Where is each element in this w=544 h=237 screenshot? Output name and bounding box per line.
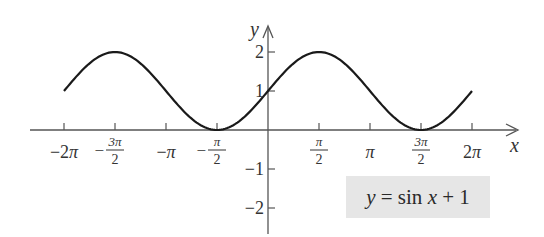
svg-text:−2π: −2π — [50, 142, 79, 162]
equation-legend: y = sin x + 1 — [346, 176, 490, 218]
svg-text:3π: 3π — [413, 134, 428, 149]
x-tick-label: 2π — [463, 142, 482, 162]
y-tick-label: −1 — [245, 159, 264, 179]
svg-text:2: 2 — [418, 152, 425, 167]
svg-text:2: 2 — [316, 152, 323, 167]
x-tick-label: −3π2 — [94, 134, 124, 167]
legend-x: x — [428, 185, 437, 210]
x-tick-label: π2 — [310, 134, 328, 167]
svg-text:3π: 3π — [107, 134, 122, 149]
legend-y: y — [366, 185, 375, 210]
legend-eq: = sin — [376, 185, 428, 210]
svg-text:−: − — [94, 141, 104, 160]
svg-text:π: π — [316, 134, 323, 149]
svg-text:2: 2 — [214, 152, 221, 167]
svg-text:−π: −π — [156, 142, 176, 162]
legend-tail: + 1 — [437, 185, 470, 210]
x-tick-label: π — [365, 142, 375, 162]
svg-text:π: π — [214, 134, 221, 149]
x-tick-label: −π — [156, 142, 176, 162]
y-axis-label: y — [248, 18, 259, 41]
y-tick-label: 2 — [255, 42, 264, 62]
x-tick-label: 3π2 — [412, 134, 430, 167]
x-tick-label: −2π — [50, 142, 79, 162]
x-tick-label: −π2 — [196, 134, 226, 167]
svg-text:−: − — [196, 141, 206, 160]
x-axis-label: x — [509, 134, 519, 156]
svg-text:π: π — [365, 142, 375, 162]
svg-text:2π: 2π — [463, 142, 482, 162]
y-tick-label: −2 — [245, 198, 264, 218]
svg-text:2: 2 — [112, 152, 119, 167]
y-tick-label: 1 — [255, 81, 264, 101]
